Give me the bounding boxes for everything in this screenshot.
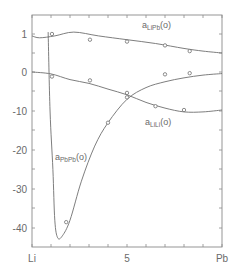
y-tick-label: 0 — [21, 67, 27, 78]
point-a-pbpb — [188, 71, 191, 74]
chart: 10-10-20-30-40 Li5Pb aLiPb(o)aLiLi(o)aPb… — [0, 0, 235, 273]
point-a-lili — [88, 79, 91, 82]
curve-a-pbpb — [48, 32, 222, 239]
point-a-lipb — [88, 38, 91, 41]
y-tick-label: -30 — [13, 184, 28, 195]
point-a-pbpb — [65, 220, 68, 223]
point-a-lili — [125, 91, 128, 94]
point-a-lili — [154, 105, 157, 108]
x-tick-label: 5 — [124, 253, 130, 264]
label-a-lipb: aLiPb(o) — [142, 20, 171, 31]
data-points — [50, 32, 191, 224]
label-a-pbpb: aPbPb(o) — [55, 152, 87, 163]
curves — [32, 32, 222, 239]
point-a-pbpb — [163, 73, 166, 76]
y-tick-label: -20 — [13, 145, 28, 156]
y-tick-label: 1 — [21, 29, 27, 40]
point-a-lili — [50, 75, 53, 78]
point-a-lipb — [125, 40, 128, 43]
label-a-lili: aLiLi(o) — [145, 117, 171, 128]
point-a-pbpb — [106, 121, 109, 124]
x-tick-label: Pb — [216, 253, 229, 264]
series-labels: aLiPb(o)aLiLi(o)aPbPb(o) — [55, 20, 171, 163]
point-a-pbpb — [125, 96, 128, 99]
point-a-lipb — [50, 32, 53, 35]
point-a-lili — [182, 108, 185, 111]
y-tick-label: -40 — [13, 223, 28, 234]
x-tick-label: Li — [28, 253, 36, 264]
point-a-lipb — [188, 49, 191, 52]
y-tick-labels: 10-10-20-30-40 — [13, 29, 28, 234]
point-a-lipb — [163, 44, 166, 47]
x-tick-labels: Li5Pb — [28, 253, 228, 264]
y-tick-label: -10 — [13, 106, 28, 117]
